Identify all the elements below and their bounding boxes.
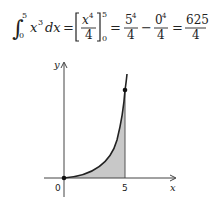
y-axis-label: y bbox=[53, 59, 60, 70]
x-axis-label: x bbox=[170, 182, 176, 193]
origin-label: 0 bbox=[55, 183, 61, 193]
area-graph: y x 0 5 bbox=[0, 0, 216, 211]
origin-point bbox=[62, 176, 67, 181]
shaded-area bbox=[64, 90, 125, 178]
point-at-x5 bbox=[123, 88, 128, 93]
x-tick-5-label: 5 bbox=[122, 183, 128, 193]
